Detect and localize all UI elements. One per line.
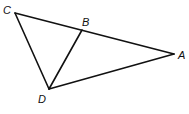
- label-d: D: [38, 93, 46, 105]
- segment-db: [49, 30, 82, 89]
- segment-da: [49, 54, 174, 89]
- label-a: A: [177, 49, 185, 61]
- label-b: B: [82, 16, 89, 28]
- segment-cd: [15, 13, 49, 89]
- segment-ca: [15, 13, 174, 54]
- triangle-diagram: C B A D: [0, 0, 189, 114]
- label-c: C: [3, 4, 11, 16]
